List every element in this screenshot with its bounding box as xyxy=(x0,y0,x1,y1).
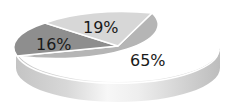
label-19: 19% xyxy=(83,18,119,37)
label-65: 65% xyxy=(130,51,166,70)
pie-chart: 65% 16% 19% xyxy=(0,0,235,112)
label-16: 16% xyxy=(36,35,72,54)
